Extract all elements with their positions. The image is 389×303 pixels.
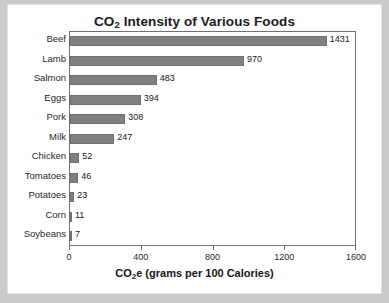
bar <box>70 36 327 46</box>
x-tick-mark <box>213 246 214 250</box>
chart-title: CO2 Intensity of Various Foods <box>8 14 381 29</box>
bar <box>70 56 244 66</box>
chart-title-prefix: CO <box>94 14 114 29</box>
bar-value-label: 483 <box>160 73 175 83</box>
x-tick-label: 800 <box>205 252 220 262</box>
bar-row: 52 <box>70 149 355 169</box>
plot-area: 1431970483394308247524623117 <box>69 31 356 246</box>
x-tick-label: 400 <box>133 252 148 262</box>
x-tick-label: 1600 <box>346 252 366 262</box>
bar <box>70 153 79 163</box>
bar-row: 46 <box>70 169 355 189</box>
x-axis-label-prefix: CO <box>115 267 132 279</box>
bar-value-label: 970 <box>247 54 262 64</box>
chart-page: CO2 Intensity of Various Foods BeefLambS… <box>0 0 389 303</box>
bar <box>70 192 74 202</box>
chart-title-subscript: 2 <box>114 19 119 30</box>
x-axis-label-rest: e (grams per 100 Calories) <box>136 267 274 279</box>
bar-row: 247 <box>70 130 355 150</box>
category-label: Potatoes <box>8 189 66 200</box>
bar-row: 483 <box>70 71 355 91</box>
bar-row: 1431 <box>70 32 355 52</box>
category-label: Beef <box>8 33 66 44</box>
bar-value-label: 11 <box>75 210 84 220</box>
bar <box>70 95 141 105</box>
category-label: Lamb <box>8 53 66 64</box>
bar-value-label: 308 <box>128 112 143 122</box>
x-tick-label: 0 <box>66 252 71 262</box>
category-label: Eggs <box>8 92 66 103</box>
bar <box>70 75 157 85</box>
chart-card: CO2 Intensity of Various Foods BeefLambS… <box>8 5 381 293</box>
x-tick-label: 1200 <box>274 252 294 262</box>
bar-value-label: 247 <box>117 132 132 142</box>
category-label: Tomatoes <box>8 170 66 181</box>
x-axis-ticks <box>69 246 356 251</box>
category-label: Salmon <box>8 72 66 83</box>
x-axis-label-subscript: 2 <box>132 272 136 281</box>
category-axis-labels: BeefLambSalmonEggsPorkMilkChickenTomatoe… <box>8 31 66 246</box>
category-label: Pork <box>8 111 66 122</box>
x-tick-mark <box>355 246 356 250</box>
chart-title-rest: Intensity of Various Foods <box>120 14 295 29</box>
x-axis-tick-labels: 040080012001600 <box>69 252 356 264</box>
category-label: Chicken <box>8 150 66 161</box>
category-label: Soybeans <box>8 228 66 239</box>
x-tick-mark <box>284 246 285 250</box>
category-label: Milk <box>8 131 66 142</box>
bar-row: 970 <box>70 52 355 72</box>
bar-value-label: 52 <box>82 151 92 161</box>
bar-row: 308 <box>70 110 355 130</box>
x-tick-mark <box>69 246 70 250</box>
bar <box>70 212 72 222</box>
bar <box>70 134 114 144</box>
bar <box>70 173 78 183</box>
bars-layer: 1431970483394308247524623117 <box>70 32 355 245</box>
x-axis-label: CO2e (grams per 100 Calories) <box>8 267 381 279</box>
bar-value-label: 1431 <box>330 34 350 44</box>
bar-row: 394 <box>70 91 355 111</box>
bar <box>70 114 125 124</box>
bar-row: 23 <box>70 188 355 208</box>
bar-row: 11 <box>70 208 355 228</box>
bar-value-label: 46 <box>81 171 91 181</box>
bar <box>70 231 72 241</box>
bar-value-label: 7 <box>75 229 80 239</box>
category-label: Corn <box>8 209 66 220</box>
bar-value-label: 23 <box>77 190 87 200</box>
bar-row: 7 <box>70 227 355 247</box>
bar-value-label: 394 <box>144 93 159 103</box>
x-tick-mark <box>141 246 142 250</box>
